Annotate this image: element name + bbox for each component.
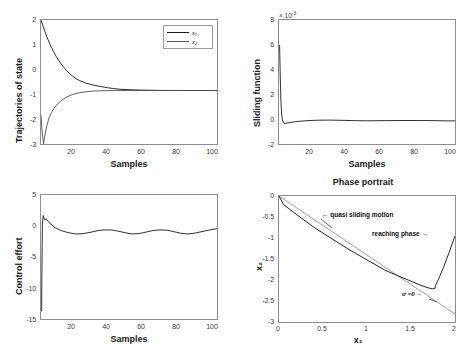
states-xtick-1: 40 xyxy=(98,148,114,155)
legend-row-x1: x₁ xyxy=(167,28,209,37)
quasi-sliding-leader xyxy=(321,219,332,228)
annotation-reaching-phase: reaching phase → xyxy=(372,230,428,237)
phase-ytick-2: -1 xyxy=(256,234,274,241)
sliding-xtick-3: 80 xyxy=(406,148,422,155)
sliding-plot-canvas xyxy=(279,20,455,144)
sliding-xtick-4: 100 xyxy=(441,148,459,155)
control-xtick-0: 20 xyxy=(63,323,79,330)
subplot-control-effort: Control effort 5 0 -5 -10 -15 20 40 60 8… xyxy=(0,175,238,350)
sliding-xtick-2: 60 xyxy=(371,148,387,155)
phase-xtick-2: 1 xyxy=(358,325,374,332)
control-xtick-4: 100 xyxy=(203,323,221,330)
control-ytick-2: -5 xyxy=(22,253,36,260)
phase-ytick-5: -2.5 xyxy=(256,297,274,304)
phase-ytick-6: -3 xyxy=(256,318,274,325)
annotation-sigma-zero: σ =0 → xyxy=(402,291,422,297)
states-ytick-0: 2 xyxy=(22,16,36,23)
sliding-ytick-4: 0 xyxy=(260,116,274,123)
series-x2-line xyxy=(41,91,217,145)
sliding-xtick-1: 40 xyxy=(336,148,352,155)
control-ytick-4: -15 xyxy=(20,316,36,323)
control-xtick-1: 40 xyxy=(98,323,114,330)
control-ytick-1: 0 xyxy=(22,222,36,229)
subplot-phase-portrait: Phase portrait x₂ 0 -0.5 -1 -1.5 -2 -2.5… xyxy=(238,175,476,350)
phase-xlabel-text: x₁ xyxy=(354,335,363,345)
series-trajectory-line xyxy=(279,196,455,289)
states-xtick-0: 20 xyxy=(63,148,79,155)
matlab-figure: Trajectories of state 2 1 0 -1 -2 -3 x₁ … xyxy=(0,0,476,350)
control-axes xyxy=(40,194,218,320)
legend-row-x2: x₂ xyxy=(167,37,209,46)
phase-xtick-3: 1.5 xyxy=(402,325,418,332)
sliding-xtick-0: 20 xyxy=(301,148,317,155)
states-ytick-4: -2 xyxy=(22,116,36,123)
states-xlabel: Samples xyxy=(89,159,169,169)
phase-ytick-3: -1.5 xyxy=(256,255,274,262)
subplot-trajectories-of-state: Trajectories of state 2 1 0 -1 -2 -3 x₁ … xyxy=(0,0,238,175)
phase-xlabel: x₁ xyxy=(338,335,378,345)
sliding-axes xyxy=(278,19,456,145)
legend-label-x1: x₁ xyxy=(192,30,197,36)
states-ytick-1: 1 xyxy=(22,41,36,48)
states-ytick-2: 0 xyxy=(22,66,36,73)
states-xtick-4: 100 xyxy=(203,148,221,155)
series-control-line xyxy=(42,216,217,312)
phase-title: Phase portrait xyxy=(313,177,413,187)
control-ytick-3: -10 xyxy=(20,285,36,292)
states-legend: x₁ x₂ xyxy=(163,25,213,49)
states-ytick-3: -1 xyxy=(22,91,36,98)
legend-swatch-x1 xyxy=(167,32,189,33)
subplot-sliding-function: Sliding function × 10-3 8 6 4 2 0 -2 20 … xyxy=(238,0,476,175)
annotation-quasi-sliding-motion: ← quasi sliding motion xyxy=(322,211,394,218)
phase-xtick-4: 2 xyxy=(446,325,462,332)
phase-xtick-0: 0 xyxy=(270,325,286,332)
phase-ylabel: x₂ xyxy=(254,262,264,271)
phase-ytick-4: -2 xyxy=(256,276,274,283)
sliding-ytick-0: 8 xyxy=(260,16,274,23)
legend-label-x2: x₂ xyxy=(192,39,197,45)
phase-xtick-1: 0.5 xyxy=(314,325,330,332)
phase-ytick-1: -0.5 xyxy=(256,213,274,220)
states-ytick-5: -3 xyxy=(22,141,36,148)
states-axes: x₁ x₂ xyxy=(40,19,218,145)
sliding-ytick-5: -2 xyxy=(260,141,274,148)
states-xtick-3: 80 xyxy=(168,148,184,155)
series-sliding-line xyxy=(280,45,455,124)
phase-ytick-0: 0 xyxy=(256,192,274,199)
sliding-ytick-1: 6 xyxy=(260,41,274,48)
control-xlabel: Samples xyxy=(89,334,169,344)
sliding-ytick-2: 4 xyxy=(260,66,274,73)
control-plot-canvas xyxy=(41,195,217,319)
control-xtick-3: 80 xyxy=(168,323,184,330)
phase-ylabel-text: x₂ xyxy=(254,262,264,271)
sliding-xlabel: Samples xyxy=(327,159,407,169)
legend-swatch-x2 xyxy=(167,41,189,42)
states-xtick-2: 60 xyxy=(133,148,149,155)
sliding-exponent: × 10-3 xyxy=(279,10,296,19)
sliding-exponent-power: -3 xyxy=(292,10,296,16)
sliding-ytick-3: 2 xyxy=(260,91,274,98)
control-xtick-2: 60 xyxy=(133,323,149,330)
control-ytick-0: 5 xyxy=(22,191,36,198)
